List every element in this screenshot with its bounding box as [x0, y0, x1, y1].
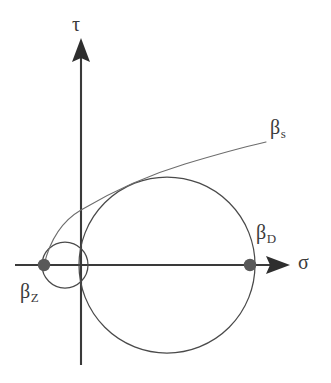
beta-d-base: β [256, 221, 266, 243]
figure-canvas [0, 0, 331, 383]
tau-symbol: τ [72, 13, 80, 35]
beta-s-label: βs [270, 117, 286, 140]
beta-s-base: β [270, 116, 280, 138]
beta-s-subscript: s [281, 126, 286, 141]
sigma-symbol: σ [298, 251, 309, 273]
mohr-circle-figure: τ σ βZ βD βs [0, 0, 331, 383]
beta-z-label: βZ [20, 281, 39, 304]
beta-z-base: β [20, 280, 30, 302]
tau-axis-label: τ [72, 14, 80, 34]
sigma-axis-label: σ [298, 252, 309, 272]
beta-d-label: βD [256, 222, 276, 245]
tau-axis [72, 38, 90, 365]
beta-z-point-dot[interactable] [38, 259, 50, 271]
beta-d-point-dot[interactable] [244, 259, 256, 271]
failure-envelope-curve [44, 142, 266, 265]
beta-z-subscript: Z [31, 290, 39, 305]
beta-d-subscript: D [267, 231, 276, 246]
